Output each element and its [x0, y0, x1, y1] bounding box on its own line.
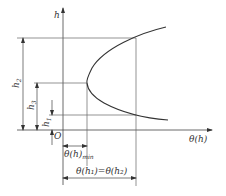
parabola-curve	[87, 27, 168, 120]
h2-label: h2	[11, 78, 22, 88]
theta-min-label: θ(h)min	[64, 149, 94, 160]
x-axis-label: θ(h)	[189, 134, 208, 144]
theta-equal-label: θ(h₁)=θ(h₂)	[76, 166, 128, 176]
parabola-diagram: h θ(h) O h2 h3 h1 θ(h)min θ(h₁)=θ(h₂)	[0, 0, 226, 196]
y-axis-label: h	[54, 10, 60, 20]
hmin-label: h3	[26, 100, 37, 110]
h1-label: h1	[41, 117, 52, 127]
origin-label: O	[54, 131, 62, 141]
